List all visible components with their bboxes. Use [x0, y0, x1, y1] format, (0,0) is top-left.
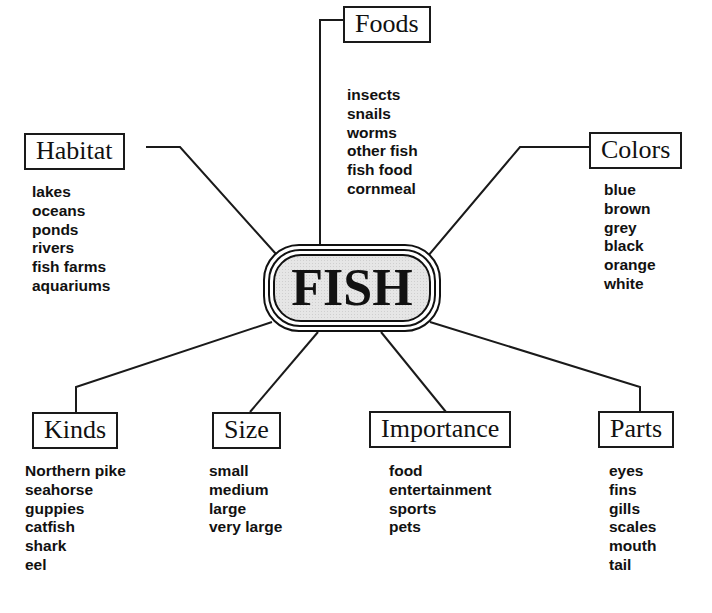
list-item: entertainment: [389, 481, 492, 500]
list-item: rivers: [32, 239, 110, 258]
category-parts-list: eyes fins gills scales mouth tail: [609, 462, 656, 575]
connector-kinds: [76, 322, 272, 412]
center-node: FISH: [263, 244, 441, 332]
list-item: eel: [25, 556, 126, 575]
list-item: oceans: [32, 202, 110, 221]
list-item: other fish: [347, 142, 418, 161]
list-item: black: [604, 237, 656, 256]
list-item: large: [209, 500, 282, 519]
category-parts-box: Parts: [598, 411, 674, 448]
list-item: food: [389, 462, 492, 481]
center-node-fill: FISH: [273, 254, 431, 322]
connector-size: [250, 332, 318, 412]
list-item: blue: [604, 181, 656, 200]
category-habitat-box: Habitat: [24, 133, 125, 170]
list-item: catfish: [25, 518, 126, 537]
list-item: fins: [609, 481, 656, 500]
list-item: tail: [609, 556, 656, 575]
list-item: gills: [609, 500, 656, 519]
connector-importance: [381, 332, 446, 412]
list-item: very large: [209, 518, 282, 537]
list-item: snails: [347, 105, 418, 124]
category-kinds-list: Northern pike seahorse guppies catfish s…: [25, 462, 126, 575]
list-item: ponds: [32, 221, 110, 240]
list-item: guppies: [25, 500, 126, 519]
list-item: brown: [604, 200, 656, 219]
list-item: aquariums: [32, 277, 110, 296]
connector-habitat: [146, 147, 276, 254]
list-item: grey: [604, 219, 656, 238]
list-item: cornmeal: [347, 180, 418, 199]
category-size-list: small medium large very large: [209, 462, 282, 537]
category-colors-list: blue brown grey black orange white: [604, 181, 656, 294]
list-item: eyes: [609, 462, 656, 481]
category-importance-list: food entertainment sports pets: [389, 462, 492, 537]
category-colors-box: Colors: [589, 132, 682, 169]
center-title: FISH: [291, 262, 412, 314]
list-item: scales: [609, 518, 656, 537]
connector-colors: [428, 147, 597, 256]
list-item: small: [209, 462, 282, 481]
category-kinds-box: Kinds: [32, 412, 118, 449]
list-item: white: [604, 275, 656, 294]
category-foods-list: insects snails worms other fish fish foo…: [347, 86, 418, 199]
category-importance-box: Importance: [369, 411, 511, 448]
list-item: lakes: [32, 183, 110, 202]
list-item: insects: [347, 86, 418, 105]
list-item: fish farms: [32, 258, 110, 277]
category-foods-box: Foods: [343, 6, 431, 43]
category-habitat-list: lakes oceans ponds rivers fish farms aqu…: [32, 183, 110, 296]
category-size-box: Size: [212, 412, 281, 449]
list-item: medium: [209, 481, 282, 500]
list-item: orange: [604, 256, 656, 275]
list-item: worms: [347, 124, 418, 143]
list-item: mouth: [609, 537, 656, 556]
list-item: fish food: [347, 161, 418, 180]
connector-foods: [320, 20, 344, 244]
list-item: pets: [389, 518, 492, 537]
connector-parts: [430, 322, 640, 412]
list-item: seahorse: [25, 481, 126, 500]
list-item: shark: [25, 537, 126, 556]
list-item: sports: [389, 500, 492, 519]
list-item: Northern pike: [25, 462, 126, 481]
center-node-border: FISH: [268, 249, 436, 327]
